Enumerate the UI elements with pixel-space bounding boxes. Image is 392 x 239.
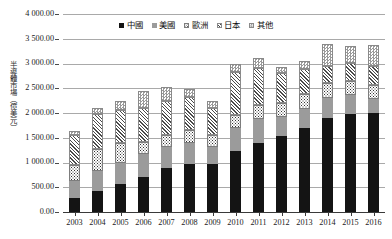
bar-segment bbox=[138, 142, 150, 154]
y-axis-tick-mark bbox=[55, 88, 59, 89]
bar-segment bbox=[322, 83, 334, 98]
x-axis-tick-mark bbox=[328, 213, 329, 216]
bar-segment bbox=[161, 87, 173, 101]
x-axis-label[interactable]: 2014 bbox=[316, 218, 339, 227]
bar-segment bbox=[253, 143, 265, 212]
y-axis-label: 3 500.00 bbox=[25, 35, 54, 43]
bar-group[interactable] bbox=[207, 14, 219, 212]
x-axis-label[interactable]: 2003 bbox=[63, 218, 86, 227]
bar-segment bbox=[207, 135, 219, 147]
bar-stack bbox=[184, 89, 196, 212]
y-axis-tick-mark bbox=[55, 39, 59, 40]
x-axis-tick-mark bbox=[167, 213, 168, 216]
bar-segment bbox=[69, 165, 81, 180]
x-axis-label[interactable]: 2015 bbox=[339, 218, 362, 227]
x-axis-tick-mark bbox=[75, 213, 76, 216]
x-axis-tick-mark bbox=[351, 213, 352, 216]
x-axis-tick-mark bbox=[259, 213, 260, 216]
bar-stack bbox=[230, 64, 242, 212]
bar-segment bbox=[276, 136, 288, 212]
bar-segment bbox=[115, 143, 127, 163]
bar-segment bbox=[345, 63, 357, 81]
bar-segment bbox=[230, 128, 242, 151]
bar-stack bbox=[115, 101, 127, 212]
y-axis-tick-mark bbox=[55, 212, 59, 213]
bar-group[interactable] bbox=[230, 14, 242, 212]
bar-group[interactable] bbox=[161, 14, 173, 212]
bar-segment bbox=[322, 44, 334, 66]
bar-segment bbox=[161, 147, 173, 168]
bar-group[interactable] bbox=[69, 14, 81, 212]
bar-group[interactable] bbox=[115, 14, 127, 212]
bar-stack bbox=[253, 58, 265, 212]
bar-segment bbox=[276, 103, 288, 117]
x-axis-label[interactable]: 2013 bbox=[293, 218, 316, 227]
bar-segment bbox=[253, 58, 265, 69]
bar-segment bbox=[69, 198, 81, 212]
bar-stack bbox=[69, 131, 81, 212]
bar-segment bbox=[230, 64, 242, 72]
y-axis-tick-mark bbox=[55, 138, 59, 139]
bar-group[interactable] bbox=[92, 14, 104, 212]
bar-group[interactable] bbox=[322, 14, 334, 212]
y-axis-label: 500.00 bbox=[31, 183, 54, 191]
bar-segment bbox=[184, 89, 196, 97]
x-axis-label[interactable]: 2008 bbox=[178, 218, 201, 227]
bar-segment bbox=[253, 68, 265, 104]
bar-stack bbox=[345, 46, 357, 212]
bar-group[interactable] bbox=[345, 14, 357, 212]
bar-segment bbox=[322, 118, 334, 212]
bar-segment bbox=[184, 164, 196, 213]
bar-group[interactable] bbox=[276, 14, 288, 212]
bar-segment bbox=[138, 177, 150, 212]
bar-segment bbox=[184, 97, 196, 130]
y-axis-label: 1 000.00 bbox=[25, 158, 54, 166]
bar-segment bbox=[184, 130, 196, 143]
x-axis-label[interactable]: 2011 bbox=[247, 218, 270, 227]
bar-segment bbox=[322, 66, 334, 83]
bar-segment bbox=[299, 94, 311, 108]
bar-group[interactable] bbox=[253, 14, 265, 212]
bar-segment bbox=[276, 117, 288, 136]
bar-stack bbox=[322, 44, 334, 212]
y-axis-label: 4 000.00 bbox=[25, 10, 54, 18]
bar-segment bbox=[92, 191, 104, 212]
x-axis-label[interactable]: 2016 bbox=[362, 218, 385, 227]
bar-segment bbox=[368, 66, 380, 85]
bar-stack bbox=[161, 87, 173, 212]
bar-segment bbox=[368, 113, 380, 212]
x-axis-tick-mark bbox=[282, 213, 283, 216]
x-axis-label[interactable]: 2010 bbox=[224, 218, 247, 227]
y-axis-tick-mark bbox=[55, 113, 59, 114]
bar-segment bbox=[69, 135, 81, 166]
x-axis-label[interactable]: 2007 bbox=[155, 218, 178, 227]
x-axis-tick-labels: 2003200420052006200720082009201020112012… bbox=[63, 216, 385, 236]
bar-stack bbox=[138, 91, 150, 212]
bar-segment bbox=[207, 101, 219, 108]
bar-group[interactable] bbox=[368, 14, 380, 212]
bar-segment bbox=[345, 114, 357, 212]
bar-group[interactable] bbox=[184, 14, 196, 212]
y-axis-label: 0.00 bbox=[40, 208, 54, 216]
bar-stack bbox=[368, 45, 380, 212]
x-axis-label[interactable]: 2009 bbox=[201, 218, 224, 227]
bar-segment bbox=[322, 98, 334, 118]
bar-segment bbox=[368, 85, 380, 99]
bar-segment bbox=[368, 99, 380, 113]
y-axis-label: 3 000.00 bbox=[25, 59, 54, 67]
x-axis-label[interactable]: 2004 bbox=[86, 218, 109, 227]
x-axis-label[interactable]: 2005 bbox=[109, 218, 132, 227]
bar-segment bbox=[253, 119, 265, 143]
bar-segment bbox=[92, 114, 104, 150]
x-axis-label[interactable]: 2006 bbox=[132, 218, 155, 227]
bar-segment bbox=[207, 108, 219, 135]
bar-segment bbox=[92, 149, 104, 171]
x-axis-tick-mark bbox=[190, 213, 191, 216]
bar-group[interactable] bbox=[299, 14, 311, 212]
x-axis-label[interactable]: 2012 bbox=[270, 218, 293, 227]
x-axis-tick-mark bbox=[121, 213, 122, 216]
bar-segment bbox=[253, 105, 265, 119]
bar-series-container bbox=[63, 14, 385, 212]
bar-group[interactable] bbox=[138, 14, 150, 212]
bar-segment bbox=[115, 101, 127, 110]
